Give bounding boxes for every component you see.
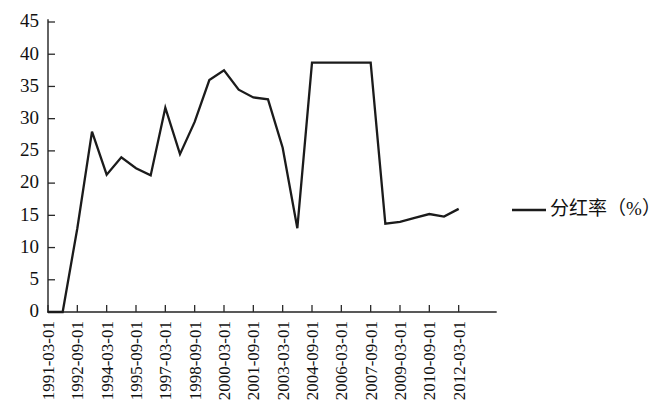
x-tick-label-10: 2006-03-01 bbox=[332, 321, 351, 400]
x-tick-label-12: 2009-03-01 bbox=[391, 321, 410, 400]
x-tick-label-1: 1992-09-01 bbox=[68, 321, 87, 400]
x-tick-label-14: 2012-03-01 bbox=[450, 321, 469, 400]
dividend-rate-line-chart: 051015202530354045 1991-03-011992-09-011… bbox=[0, 0, 665, 420]
y-tick-label-8: 40 bbox=[20, 43, 39, 64]
x-tick-label-8: 2003-03-01 bbox=[274, 321, 293, 400]
y-tick-label-2: 10 bbox=[20, 236, 39, 257]
x-tick-label-0: 1991-03-01 bbox=[39, 321, 58, 400]
x-axis-tick-labels: 1991-03-011992-09-011994-03-011995-09-01… bbox=[39, 321, 469, 400]
x-tick-label-2: 1994-03-01 bbox=[98, 321, 117, 400]
y-axis-tick-labels: 051015202530354045 bbox=[20, 10, 39, 321]
x-tick-label-3: 1995-09-01 bbox=[127, 321, 146, 400]
chart-canvas: 051015202530354045 1991-03-011992-09-011… bbox=[0, 0, 665, 420]
x-tick-label-9: 2004-09-01 bbox=[303, 321, 322, 400]
y-tick-label-0: 0 bbox=[30, 300, 40, 321]
y-tick-label-5: 25 bbox=[20, 139, 39, 160]
x-tick-label-11: 2007-09-01 bbox=[362, 321, 381, 400]
x-tick-label-6: 2000-03-01 bbox=[215, 321, 234, 400]
legend-label: 分红率（%） bbox=[550, 198, 661, 219]
x-tick-label-4: 1997-03-01 bbox=[156, 321, 175, 400]
y-tick-label-3: 15 bbox=[20, 204, 39, 225]
y-tick-label-9: 45 bbox=[20, 10, 39, 31]
x-tick-label-5: 1998-09-01 bbox=[186, 321, 205, 400]
dividend-rate-series-line bbox=[48, 63, 459, 312]
y-tick-label-7: 35 bbox=[20, 75, 39, 96]
y-axis-tick-marks bbox=[48, 22, 55, 312]
x-tick-label-13: 2010-09-01 bbox=[420, 321, 439, 400]
y-tick-label-6: 30 bbox=[20, 107, 39, 128]
x-axis-tick-marks bbox=[48, 305, 459, 312]
y-tick-label-4: 20 bbox=[20, 171, 39, 192]
y-tick-label-1: 5 bbox=[30, 268, 40, 289]
x-tick-label-7: 2001-09-01 bbox=[244, 321, 263, 400]
